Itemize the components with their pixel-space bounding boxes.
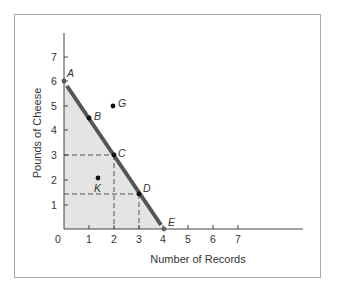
y-tick-4: 4 bbox=[51, 124, 57, 136]
y-tick-2: 2 bbox=[51, 174, 57, 186]
label-d: D bbox=[143, 182, 151, 194]
label-b: B bbox=[94, 110, 101, 122]
x-tick-6: 6 bbox=[210, 233, 216, 245]
point-k-marker bbox=[96, 176, 101, 181]
point-e-marker bbox=[162, 227, 167, 232]
point-g-marker bbox=[111, 104, 116, 109]
point-c-marker bbox=[112, 153, 117, 158]
label-a: A bbox=[66, 67, 74, 79]
y-tick-1: 1 bbox=[51, 199, 57, 211]
point-a-marker bbox=[62, 79, 67, 84]
label-k: K bbox=[94, 182, 102, 194]
y-tick-5: 5 bbox=[51, 100, 57, 112]
point-b-marker bbox=[87, 116, 92, 121]
x-tick-2: 2 bbox=[111, 233, 117, 245]
ppf-chart: 1 2 3 4 5 6 7 0 1 2 3 4 5 6 7 Number of … bbox=[0, 0, 337, 294]
x-tick-5: 5 bbox=[185, 233, 191, 245]
label-c: C bbox=[118, 147, 126, 159]
x-tick-7: 7 bbox=[235, 233, 241, 245]
origin-label: 0 bbox=[55, 233, 61, 245]
y-tick-7: 7 bbox=[51, 51, 57, 63]
y-axis-title: Pounds of Cheese bbox=[31, 88, 43, 179]
label-g: G bbox=[118, 97, 126, 109]
y-tick-labels: 1 2 3 4 5 6 7 bbox=[51, 51, 57, 211]
x-tick-4: 4 bbox=[160, 233, 166, 245]
x-tick-3: 3 bbox=[136, 233, 142, 245]
label-e: E bbox=[168, 216, 176, 228]
y-tick-3: 3 bbox=[51, 149, 57, 161]
x-axis-title: Number of Records bbox=[150, 253, 246, 265]
y-tick-6: 6 bbox=[51, 75, 57, 87]
x-tick-labels: 0 1 2 3 4 5 6 7 bbox=[55, 233, 241, 245]
point-d-marker bbox=[137, 192, 142, 197]
x-tick-1: 1 bbox=[86, 233, 92, 245]
